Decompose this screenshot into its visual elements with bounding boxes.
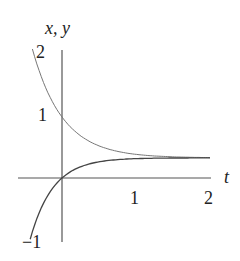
x-tick-1: 1 [130, 188, 139, 208]
y-tick-2: 2 [36, 42, 45, 62]
x-axis-label: t [224, 167, 230, 187]
xy-plot: x, y t 2 1 −1 1 2 [0, 0, 240, 261]
y-tick-1: 1 [38, 105, 47, 125]
y-axis-label: x, y [44, 18, 70, 38]
x-tick-2: 2 [204, 188, 213, 208]
curve-y-rising [30, 158, 210, 239]
curve-x-decaying [32, 49, 210, 158]
y-tick-neg1: −1 [22, 232, 41, 252]
